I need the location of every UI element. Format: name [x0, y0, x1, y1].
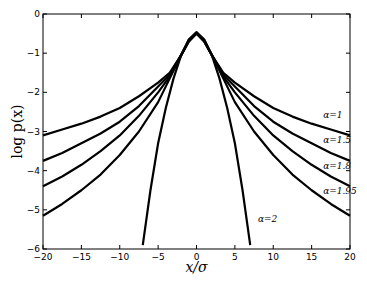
y-tick-label: −4	[27, 166, 41, 176]
y-axis-label: log p(x)	[9, 104, 25, 158]
series-line	[43, 34, 350, 161]
series-line	[43, 32, 350, 215]
series-label: α=1	[323, 110, 342, 120]
series-line	[43, 34, 350, 136]
series-label: α=1.5	[323, 135, 351, 145]
y-tick-label: 0	[34, 9, 40, 19]
y-tick-label: −1	[27, 48, 40, 58]
x-tick-label: 20	[344, 252, 356, 262]
y-tick-label: −3	[27, 127, 40, 137]
plot-frame	[43, 14, 350, 249]
series-label: α=1.95	[323, 186, 357, 196]
chart: −20−15−10−5051015200−1−2−3−4−5−6α=1α=1.5…	[0, 0, 367, 285]
y-tick-label: −6	[27, 244, 41, 254]
y-tick-label: −2	[27, 87, 40, 97]
x-tick-label: 15	[306, 252, 317, 262]
x-tick-label: −5	[151, 252, 164, 262]
x-tick-label: 10	[268, 252, 280, 262]
x-axis-label: x/σ	[185, 259, 208, 275]
x-tick-label: −10	[110, 252, 129, 262]
series-label: α=2	[258, 214, 278, 224]
x-tick-label: 5	[232, 252, 238, 262]
series-line	[43, 33, 350, 187]
y-tick-label: −5	[27, 205, 40, 215]
series-line	[143, 32, 250, 245]
x-tick-label: −15	[72, 252, 91, 262]
series-label: α=1.8	[323, 161, 351, 171]
